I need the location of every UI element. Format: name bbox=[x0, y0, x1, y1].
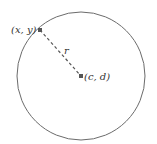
point-on-circle-label: (x, y) bbox=[11, 24, 37, 35]
center-point-marker bbox=[79, 74, 83, 78]
point-on-circle-marker bbox=[38, 28, 42, 32]
radius-label: r bbox=[64, 45, 70, 56]
radius-dashed-line bbox=[40, 30, 81, 76]
center-label: (c, d) bbox=[84, 71, 110, 82]
circle-diagram: (x, y) r (c, d) bbox=[0, 0, 157, 144]
